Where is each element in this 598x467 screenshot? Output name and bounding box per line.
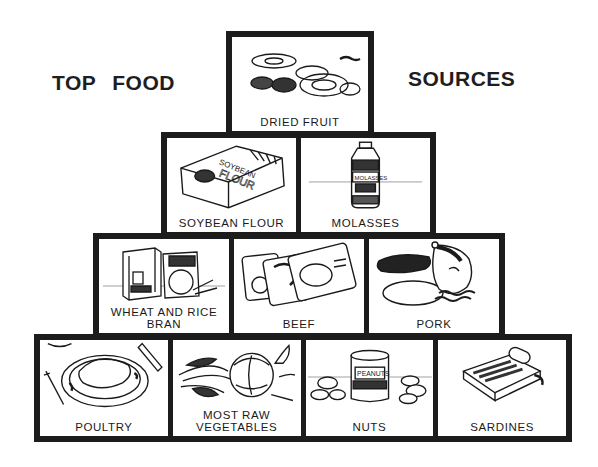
food-card-raw-vegetables: MOST RAWVEGETABLES (173, 340, 301, 436)
pyramid-row-2: SOYBEAN FLOUR SOYBEAN FLOUR MOLASSES (161, 132, 436, 238)
food-label: SARDINES (470, 421, 534, 436)
pork-ham-icon (369, 239, 499, 311)
food-label: POULTRY (75, 421, 132, 436)
food-label: PORK (417, 318, 452, 333)
bran-boxes-icon (99, 239, 229, 305)
food-card-sardines: SARDINES (438, 340, 566, 436)
food-label: DRIED FRUIT (260, 116, 339, 131)
food-card-soybean-flour: SOYBEAN FLOUR SOYBEAN FLOUR (167, 138, 296, 232)
food-card-wheat-rice-bran: WHEAT AND RICEBRAN (99, 239, 229, 333)
food-label: MOST RAWVEGETABLES (196, 409, 277, 436)
food-card-dried-fruit: DRIED FRUIT (232, 37, 368, 131)
food-label: SOYBEAN FLOUR (179, 217, 285, 232)
peanut-can-icon: PEANUTS (306, 340, 434, 414)
food-label: WHEAT AND RICEBRAN (111, 306, 217, 333)
flour-bag-icon: SOYBEAN FLOUR (167, 138, 296, 210)
food-card-pork: PORK (369, 239, 499, 333)
food-label: MOLASSES (331, 217, 399, 232)
beef-packages-icon (234, 239, 364, 311)
food-label: BEEF (283, 318, 315, 333)
food-card-poultry: POULTRY (40, 340, 168, 436)
pyramid-row-4: POULTRY MOST RAWVEGETABLES (34, 334, 572, 442)
svg-text:PEANUTS: PEANUTS (357, 370, 390, 377)
food-card-beef: BEEF (234, 239, 364, 333)
sardine-tin-icon (438, 340, 566, 414)
pyramid-row-3: WHEAT AND RICEBRAN BEEF (93, 233, 505, 339)
dried-fruit-icon (232, 37, 368, 109)
molasses-bottle-icon: MOLASSES (301, 138, 430, 210)
food-label: NUTS (353, 421, 387, 436)
vegetables-icon (173, 340, 301, 408)
pyramid-row-1: DRIED FRUIT (226, 31, 374, 137)
roast-chicken-icon (40, 340, 168, 414)
title-sources: SOURCES (408, 67, 515, 91)
svg-text:MOLASSES: MOLASSES (355, 175, 388, 181)
title-top-food: TOP FOOD (52, 71, 175, 95)
food-card-molasses: MOLASSES MOLASSES (301, 138, 430, 232)
food-card-nuts: PEANUTS NUTS (306, 340, 434, 436)
